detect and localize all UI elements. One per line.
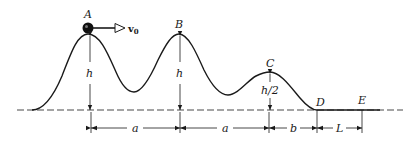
dimension-label-l: L bbox=[335, 122, 343, 135]
height-label-b: h bbox=[176, 67, 183, 80]
point-label-b: B bbox=[174, 18, 183, 31]
velocity-label: v0 bbox=[127, 23, 139, 36]
ball-icon bbox=[83, 23, 94, 34]
point-label-d: D bbox=[315, 96, 325, 109]
track-curve bbox=[32, 34, 380, 110]
height-label-a: h bbox=[86, 67, 93, 80]
dimension-label-b: b bbox=[290, 122, 297, 135]
dimension-label-a2: a bbox=[222, 122, 229, 135]
dimension-label-a1: a bbox=[132, 122, 139, 135]
height-label-c: h/2 bbox=[261, 84, 279, 97]
point-label-c: C bbox=[266, 57, 275, 70]
point-label-a: A bbox=[83, 8, 92, 21]
track-diagram: v0 A B C D E h h h/2 a a b L bbox=[0, 0, 415, 148]
point-label-e: E bbox=[357, 94, 366, 107]
velocity-arrowhead-icon bbox=[115, 24, 125, 33]
